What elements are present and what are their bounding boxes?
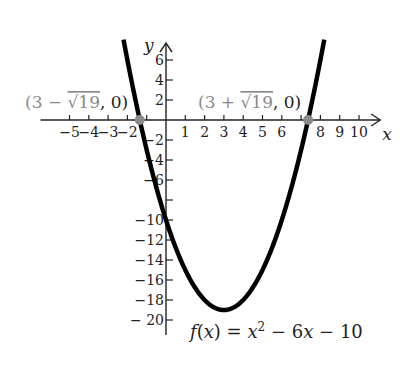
x-tick-labels: −5−4−3−21234568910 <box>59 124 368 140</box>
axes <box>41 43 381 335</box>
x-tick-label: 9 <box>335 124 344 140</box>
x-tick-label: −5 <box>59 124 80 140</box>
x-tick-label: 2 <box>200 124 209 140</box>
y-tick-label: 6 <box>155 52 164 68</box>
y-tick-label: −18 <box>134 292 164 308</box>
y-tick-label: 4 <box>155 72 164 88</box>
x-tick-label: 4 <box>239 124 248 140</box>
x-tick-label: −3 <box>98 124 119 140</box>
right-intercept-label: (3 + √19, 0) <box>198 92 301 112</box>
y-tick-label: −10 <box>134 212 164 228</box>
left-intercept-label: (3 − √19, 0) <box>25 92 128 112</box>
x-tick-label: 6 <box>277 124 286 140</box>
y-axis-label: y <box>143 35 154 55</box>
y-tick-label: − 20 <box>130 312 164 328</box>
parabola-chart: −5−4−3−21234568910 642−2−4−6−10−12−14−16… <box>0 0 414 373</box>
intercept-point <box>135 115 145 125</box>
parabola-curve <box>124 40 325 310</box>
x-axis-label: x <box>382 124 392 144</box>
x-tick-label: 1 <box>181 124 190 140</box>
x-tick-label: 8 <box>316 124 325 140</box>
intercept-point <box>303 115 313 125</box>
y-tick-label: 2 <box>155 92 164 108</box>
x-tick-label: 3 <box>219 124 228 140</box>
x-tick-label: −4 <box>78 124 99 140</box>
x-tick-label: −2 <box>117 124 138 140</box>
y-tick-label: −12 <box>134 232 164 248</box>
x-tick-label: 10 <box>350 124 368 140</box>
function-label: f(x) = x2 − 6x − 10 <box>188 320 363 342</box>
y-tick-label: −14 <box>134 252 164 268</box>
x-tick-label: 5 <box>258 124 267 140</box>
y-tick-label: −16 <box>134 272 164 288</box>
